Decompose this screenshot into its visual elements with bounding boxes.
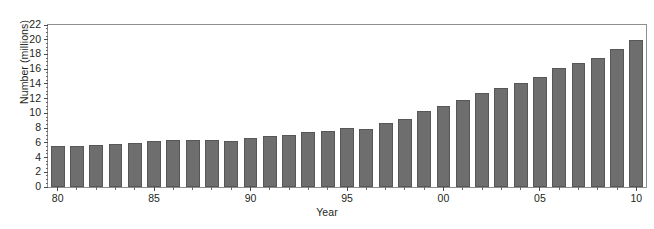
x-tick-mark	[289, 187, 290, 190]
x-tick-mark	[269, 187, 270, 190]
y-tick-mark-minor	[46, 61, 49, 62]
y-tick-mark-minor	[46, 179, 49, 180]
x-tick-mark	[231, 187, 232, 190]
x-tick-mark	[462, 187, 463, 190]
x-tick-mark	[76, 187, 77, 190]
y-tick-mark-minor	[46, 150, 49, 151]
x-tick-mark	[559, 187, 560, 190]
x-tick-label: 00	[429, 192, 457, 205]
x-tick-mark	[597, 187, 598, 190]
bar	[70, 146, 84, 187]
y-tick-mark-minor	[46, 32, 49, 33]
y-tick-mark-minor	[46, 161, 49, 162]
y-tick-mark-minor	[46, 76, 49, 77]
bar	[51, 146, 65, 187]
x-tick-mark	[192, 187, 193, 190]
y-tick-mark-minor	[46, 106, 49, 107]
bar	[147, 141, 161, 187]
y-tick-mark-minor	[46, 124, 49, 125]
x-tick-mark	[134, 187, 135, 190]
y-tick-mark	[44, 25, 48, 26]
y-tick-mark-minor	[46, 168, 49, 169]
x-tick-label: 95	[333, 192, 361, 205]
y-tick-label: 20	[29, 33, 41, 46]
bar	[263, 136, 277, 187]
bar	[610, 49, 624, 187]
bar	[437, 106, 451, 187]
y-tick-label: 10	[29, 106, 41, 119]
x-tick-mark	[443, 187, 444, 191]
y-tick-mark-minor	[46, 102, 49, 103]
x-tick-mark	[347, 187, 348, 191]
bar	[552, 68, 566, 187]
x-tick-mark	[250, 187, 251, 191]
x-tick-mark	[385, 187, 386, 190]
y-tick-mark-minor	[46, 65, 49, 66]
bar	[359, 129, 373, 187]
bar	[417, 111, 431, 187]
bar	[89, 145, 103, 187]
x-tick-label: 10	[622, 192, 650, 205]
y-tick-mark-minor	[46, 94, 49, 95]
x-tick-mark	[173, 187, 174, 190]
y-tick-label: 6	[35, 136, 41, 149]
y-tick-label: 22	[29, 18, 41, 31]
bar	[379, 123, 393, 187]
y-tick-mark-minor	[46, 120, 49, 121]
y-tick-mark-minor	[46, 72, 49, 73]
x-tick-mark	[308, 187, 309, 190]
x-tick-mark	[211, 187, 212, 190]
y-tick-label: 0	[35, 180, 41, 193]
x-tick-mark	[115, 187, 116, 190]
y-tick-label: 8	[35, 121, 41, 134]
bar-chart-figure: Number (millions) 0246810121416182022 80…	[0, 0, 654, 229]
x-tick-mark	[578, 187, 579, 190]
y-tick-mark-minor	[46, 43, 49, 44]
bar	[244, 138, 258, 187]
y-tick-mark	[44, 69, 48, 70]
y-tick-label: 12	[29, 92, 41, 105]
y-tick-mark-minor	[46, 58, 49, 59]
y-tick-mark-minor	[46, 131, 49, 132]
x-tick-mark	[539, 187, 540, 191]
bar	[321, 131, 335, 187]
y-tick-mark-minor	[46, 47, 49, 48]
bar	[629, 40, 643, 187]
x-axis-title: Year	[0, 206, 654, 218]
bar	[494, 88, 508, 187]
y-tick-mark-minor	[46, 28, 49, 29]
y-axis-title: Number (millions)	[18, 0, 30, 132]
y-tick-mark-minor	[46, 50, 49, 51]
x-tick-label: 05	[526, 192, 554, 205]
y-tick-mark	[44, 54, 48, 55]
y-tick-label: 4	[35, 151, 41, 164]
x-tick-mark	[482, 187, 483, 190]
bar	[166, 140, 180, 187]
bar	[398, 119, 412, 187]
y-tick-mark-minor	[46, 36, 49, 37]
bar	[533, 77, 547, 187]
y-tick-mark-minor	[46, 139, 49, 140]
x-tick-mark	[617, 187, 618, 190]
x-tick-mark	[636, 187, 637, 191]
y-tick-mark	[44, 172, 48, 173]
bar	[514, 83, 528, 187]
y-tick-mark-minor	[46, 87, 49, 88]
y-tick-mark-minor	[46, 183, 49, 184]
y-tick-mark	[44, 98, 48, 99]
bar	[282, 135, 296, 187]
bar	[109, 144, 123, 187]
x-tick-mark	[520, 187, 521, 190]
bar	[205, 140, 219, 187]
bar	[475, 93, 489, 187]
y-tick-mark-minor	[46, 175, 49, 176]
x-tick-mark	[366, 187, 367, 190]
y-tick-label: 18	[29, 47, 41, 60]
y-tick-mark-minor	[46, 164, 49, 165]
x-tick-mark	[327, 187, 328, 190]
y-tick-mark	[44, 187, 48, 188]
bar	[224, 141, 238, 187]
y-tick-mark	[44, 83, 48, 84]
y-tick-mark-minor	[46, 91, 49, 92]
x-tick-label: 90	[237, 192, 265, 205]
